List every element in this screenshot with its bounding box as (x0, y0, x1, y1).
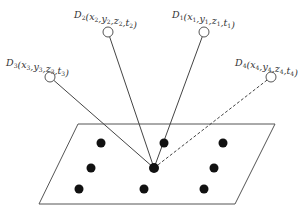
grid-point (200, 185, 209, 194)
grid-point (140, 185, 149, 194)
stations: D3(x3,y3,z3,t3)D2(x2,y2,z2,t2)D1(x1,y1,z… (5, 9, 298, 82)
station-d2-label: D2(x2,y2,z2,t2) (73, 9, 137, 30)
line-d1 (154, 37, 202, 168)
grid-point (97, 139, 106, 148)
positioning-diagram: D3(x3,y3,z3,t3)D2(x2,y2,z2,t2)D1(x1,y1,z… (0, 0, 304, 220)
grid-point (87, 164, 96, 173)
grid-points (75, 139, 228, 194)
grid-point (210, 164, 219, 173)
grid-point (219, 139, 228, 148)
target-point (149, 163, 159, 173)
station-d2-marker (103, 27, 113, 37)
grid-point (75, 185, 84, 194)
station-d1-marker (199, 27, 209, 37)
station-d3-label: D3(x3,y3,z3,t3) (5, 57, 69, 78)
grid-point (160, 139, 169, 148)
